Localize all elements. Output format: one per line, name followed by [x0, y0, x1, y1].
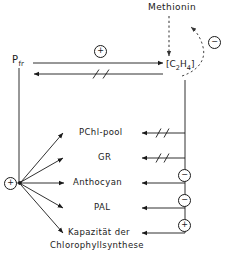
node-label-ethylene: [C2H4]	[166, 60, 194, 71]
sign-minus-methionin-inhibition: −	[208, 36, 221, 49]
target-label-anthocyan: Anthocyan	[73, 178, 122, 187]
target-label-gr: GR	[98, 153, 111, 162]
sign-plus-pfr-to-ethylene: +	[94, 45, 107, 58]
edges-hub-to-targets	[21, 133, 64, 233]
pfr-subscript: fr	[18, 60, 23, 68]
target-label-pchl-pool: PChl-pool	[79, 128, 123, 137]
target-label-kapazitaet: Kapazität der	[68, 228, 130, 237]
node-label-pfr: Pfr	[12, 55, 24, 68]
sign-plus-pfr-hub: +	[4, 177, 17, 190]
sign-minus-anthocyan: −	[178, 169, 191, 182]
edge-ethylene-to-gr	[142, 154, 185, 163]
target-label-pal: PAL	[94, 203, 110, 212]
target-label-chlorophyllsynthese: Chlorophyllsynthese	[50, 241, 144, 250]
node-label-methionin: Methionin	[148, 3, 196, 12]
edge-ethylene-to-pchl	[142, 129, 185, 138]
sign-plus-kapazitaet: +	[178, 219, 191, 232]
pathway-diagram: Methionin Pfr [C2H4] PChl-pool GR Anthoc…	[0, 0, 232, 258]
bracket-close: ]	[191, 59, 195, 69]
sign-minus-pal: −	[178, 194, 191, 207]
ethylene-h: H	[180, 59, 187, 69]
edge-ethylene-to-pfr	[34, 70, 163, 79]
